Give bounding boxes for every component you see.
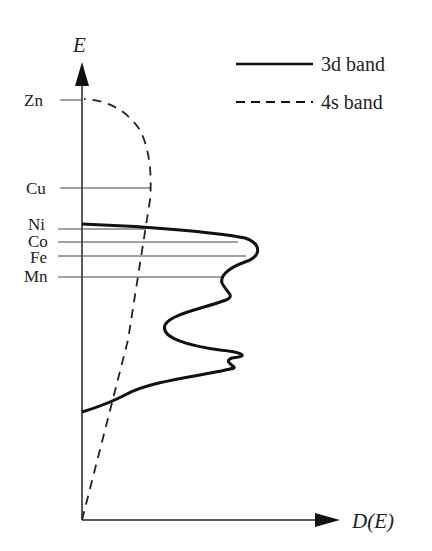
x-axis-label: D(E) [351,509,394,533]
level-label-cu: Cu [26,179,46,198]
level-label-zn: Zn [24,91,43,110]
legend-3d-band: 3d band [321,53,385,75]
3d-band-curve [82,224,258,412]
level-label-mn: Mn [24,267,48,286]
legend-4s-band: 4s band [321,91,383,113]
4s-band-curve [82,99,151,520]
y-axis-label: E [72,33,86,57]
y-axis-arrow-icon [75,62,89,86]
level-label-fe: Fe [30,248,47,267]
band-diagram: E D(E) Zn Cu Ni Co Fe Mn 3d band 4s band [0,0,432,551]
x-axis-arrow-icon [315,513,340,527]
